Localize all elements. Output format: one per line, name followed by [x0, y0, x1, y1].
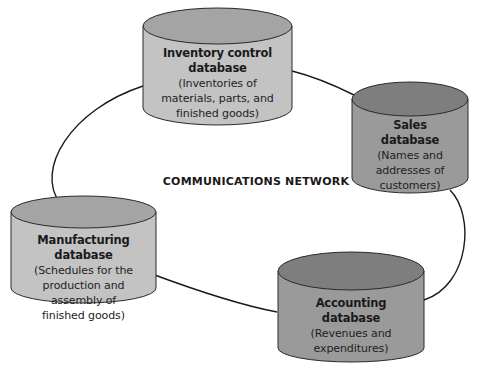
- manufacturing-database-label: Manufacturing database (Schedules for th…: [11, 233, 156, 323]
- db-description: (Revenues and: [278, 326, 424, 341]
- link-inventory-manufacturing: [52, 86, 143, 203]
- db-description: finished goods): [11, 308, 156, 323]
- db-description: (Names and: [352, 148, 468, 163]
- db-description: expenditures): [278, 341, 424, 356]
- db-description: production and: [11, 278, 156, 293]
- db-description: addresses of: [352, 163, 468, 178]
- link-sales-accounting: [424, 190, 465, 300]
- db-title: Manufacturing database: [11, 233, 156, 263]
- db-title: database: [143, 61, 292, 76]
- db-description: finished goods): [143, 106, 292, 121]
- db-title: database: [352, 133, 468, 148]
- db-description: customers): [352, 178, 468, 193]
- link-inventory-sales: [292, 71, 354, 95]
- db-description: materials, parts, and: [143, 91, 292, 106]
- db-description: assembly of: [11, 293, 156, 308]
- db-title: Accounting: [278, 296, 424, 311]
- db-title: database: [278, 311, 424, 326]
- db-description: (Inventories of: [143, 76, 292, 91]
- accounting-database-label: Accounting database (Revenues and expend…: [278, 296, 424, 356]
- sales-database-label: Sales database (Names and addresses of c…: [352, 118, 468, 193]
- db-title: Sales: [352, 118, 468, 133]
- db-description: (Schedules for the: [11, 263, 156, 278]
- link-manufacturing-accounting: [152, 274, 277, 312]
- db-title: Inventory control: [143, 46, 292, 61]
- communications-network-label: COMMUNICATIONS NETWORK: [146, 175, 366, 188]
- inventory-database-label: Inventory control database (Inventories …: [143, 46, 292, 121]
